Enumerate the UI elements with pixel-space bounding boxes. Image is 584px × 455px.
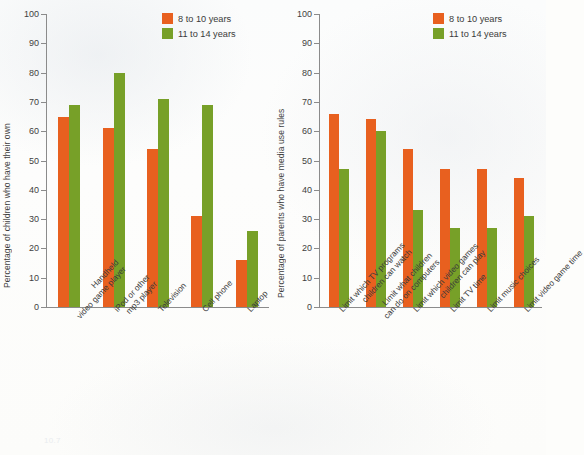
bar: [69, 105, 80, 307]
y-tick-label: 20: [302, 243, 312, 253]
y-tick-label: 10: [29, 273, 39, 283]
y-tick-label: 60: [29, 126, 39, 136]
plot-area-left: 0102030405060708090100 Handheldvideo gam…: [46, 14, 269, 308]
bar: [236, 260, 247, 307]
y-tick-label: 100: [24, 9, 39, 19]
chart-panel-left: Percentage of children who have their ow…: [0, 0, 273, 455]
y-tick-label: 60: [302, 126, 312, 136]
y-tick-label: 0: [34, 302, 39, 312]
bar-series-group: [47, 14, 269, 307]
bar-group: [47, 14, 91, 307]
y-tick-label: 40: [29, 185, 39, 195]
bar: [339, 169, 349, 307]
y-tick-label: 80: [302, 68, 312, 78]
y-tick-label: 10: [302, 273, 312, 283]
y-tick-label: 90: [302, 38, 312, 48]
y-tick-label: 100: [297, 9, 312, 19]
x-axis-labels: Limit which TV programschildren can watc…: [320, 307, 542, 427]
page-footnote: 10.7: [44, 436, 61, 445]
y-tick-label: 50: [302, 156, 312, 166]
y-tick-label: 50: [29, 156, 39, 166]
y-tick-label: 70: [29, 97, 39, 107]
bar-group: [320, 14, 357, 307]
y-tick-label: 40: [302, 185, 312, 195]
bar: [58, 117, 69, 307]
bar-group: [136, 14, 180, 307]
y-tick-label: 30: [302, 214, 312, 224]
bar-group: [180, 14, 224, 307]
bar: [329, 114, 339, 307]
bar: [158, 99, 169, 307]
bar-group: [225, 14, 269, 307]
y-tick-label: 20: [29, 243, 39, 253]
y-tick-label: 0: [307, 302, 312, 312]
x-axis-labels: Handheldvideo game playeriPod or othermp…: [47, 307, 269, 427]
bar: [202, 105, 213, 307]
y-tick-label: 70: [302, 97, 312, 107]
y-tick-label: 30: [29, 214, 39, 224]
chart-panel-right: Percentage of parents who have media use…: [273, 0, 546, 455]
plot-area-right: 0102030405060708090100 Limit which TV pr…: [319, 14, 542, 308]
y-axis-title-right: Percentage of parents who have media use…: [276, 30, 286, 298]
y-axis-title-left: Percentage of children who have their ow…: [2, 38, 12, 288]
bar: [191, 216, 202, 307]
y-tick-label: 80: [29, 68, 39, 78]
y-tick-label: 90: [29, 38, 39, 48]
